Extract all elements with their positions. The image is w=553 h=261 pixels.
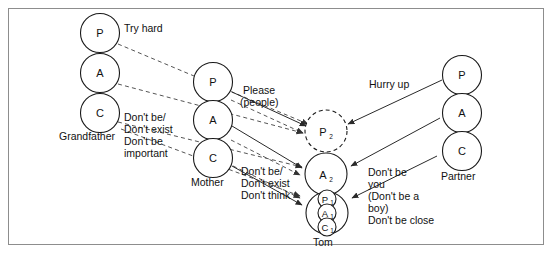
injunction-partner-line2: you <box>368 178 385 190</box>
message-hurry-up: Hurry up <box>369 78 409 90</box>
injunction-partner-line1: Don't be <box>368 166 407 178</box>
person-label-partner: Partner <box>441 170 475 182</box>
message-try-hard: Try hard <box>124 22 163 34</box>
injunction-grandfather-line4: important <box>124 147 168 159</box>
injunction-mother-line3: Don't think <box>241 189 290 201</box>
message-please-line1: Please <box>243 84 275 96</box>
injunction-mother-line1: Don't be/ <box>241 165 283 177</box>
injunction-partner-line3: (Don't be a <box>368 190 419 202</box>
injunction-grandfather-line2: Don't exist <box>124 123 173 135</box>
person-label-mother: Mother <box>191 176 224 188</box>
injunction-mother-line2: Don't exist <box>241 177 290 189</box>
injunction-grandfather-line1: Don't be/ <box>124 111 166 123</box>
person-label-tom: Tom <box>313 236 333 248</box>
diagram-canvas: P A C P A C P A <box>0 0 553 261</box>
injunction-partner-line5: Don't be close <box>368 214 434 226</box>
person-label-grandfather: Grandfather <box>59 130 115 142</box>
diagram-frame <box>8 8 544 245</box>
injunction-partner-line4: boy) <box>368 202 388 214</box>
message-please-line2: (people) <box>240 96 279 108</box>
injunction-grandfather-line3: Don't be <box>124 135 163 147</box>
